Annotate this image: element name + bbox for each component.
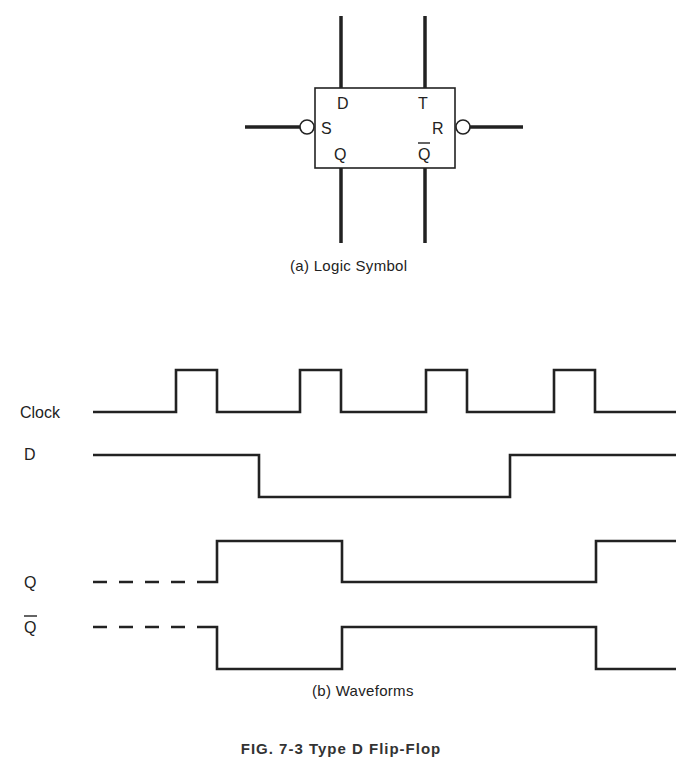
waveforms — [93, 370, 676, 669]
pin-label-d: D — [337, 95, 349, 112]
pin-label-s: S — [321, 120, 332, 137]
pin-label-q: Q — [334, 146, 346, 163]
s-inversion-bubble — [300, 120, 314, 134]
q-waveform — [210, 541, 676, 582]
logic-symbol-caption: (a) Logic Symbol — [290, 257, 407, 274]
signal-label-q: Q — [24, 574, 36, 591]
pin-label-qbar: Q — [418, 146, 430, 163]
signal-label-clock: Clock — [20, 404, 61, 421]
clock-waveform — [93, 370, 676, 412]
waveforms-caption: (b) Waveforms — [312, 682, 414, 699]
r-inversion-bubble — [456, 120, 470, 134]
pin-label-r: R — [432, 120, 444, 137]
pin-label-t: T — [418, 95, 428, 112]
logic-symbol — [245, 16, 523, 243]
signal-label-qbar: Q — [24, 619, 36, 636]
qbar-waveform — [210, 627, 676, 669]
signal-label-d: D — [24, 446, 36, 463]
figure-caption: FIG. 7-3 Type D Flip-Flop — [0, 740, 682, 757]
d-waveform — [93, 455, 676, 497]
